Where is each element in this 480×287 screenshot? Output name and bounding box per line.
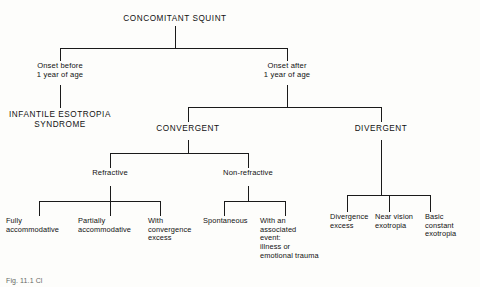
node-onset-after: Onset after 1 year of age bbox=[264, 62, 310, 80]
node-partially-accommodative: Partially accommodative bbox=[78, 217, 131, 234]
node-infantile-esotropia-syndrome: INFANTILE ESOTROPIA SYNDROME bbox=[9, 110, 111, 129]
node-near-vision-exotropia: Near vision exotropia bbox=[375, 213, 413, 230]
connector-lines bbox=[0, 0, 480, 287]
figure-canvas: CONCOMITANT SQUINT Onset before 1 year o… bbox=[0, 0, 480, 287]
node-refractive: Refractive bbox=[92, 169, 128, 178]
node-divergence-excess: Divergence excess bbox=[330, 213, 368, 230]
node-with-associated-event: With an associated event: illness or emo… bbox=[260, 217, 319, 261]
node-fully-accommodative: Fully accommodative bbox=[6, 217, 59, 234]
node-non-refractive: Non-refractive bbox=[223, 169, 273, 178]
node-divergent: DIVERGENT bbox=[355, 124, 408, 134]
node-basic-constant-exotropia: Basic constant exotropia bbox=[425, 213, 456, 239]
node-convergent: CONVERGENT bbox=[156, 124, 219, 134]
node-onset-before: Onset before 1 year of age bbox=[37, 62, 83, 80]
node-with-convergence-excess: With convergence excess bbox=[148, 217, 191, 243]
node-concomitant-squint: CONCOMITANT SQUINT bbox=[123, 14, 226, 24]
figure-caption: Fig. 11.1 Cl bbox=[6, 277, 42, 284]
node-spontaneous: Spontaneous bbox=[203, 217, 248, 226]
